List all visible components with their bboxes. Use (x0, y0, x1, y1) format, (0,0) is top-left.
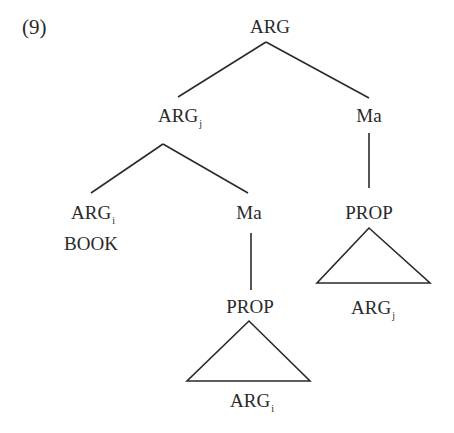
node-prop-right-label: PROP (345, 202, 393, 223)
node-prop-middle: PROP (226, 297, 274, 316)
node-arg-j-leaf-subscript: j (392, 310, 395, 321)
edge-root-left (178, 42, 266, 97)
node-arg-i-leaf: ARGi (230, 391, 274, 414)
node-arg-i-leaf-label: ARG (230, 390, 270, 411)
node-arg-j: ARGj (158, 106, 202, 129)
node-arg-j-label: ARG (158, 105, 198, 126)
edge-left-left (91, 144, 163, 193)
node-root: ARG (250, 17, 290, 36)
node-prop-right: PROP (345, 203, 393, 222)
node-arg-j-subscript: j (199, 118, 202, 129)
node-ma-right: Ma (356, 106, 381, 125)
node-arg-i-subscript: i (112, 215, 115, 226)
node-arg-i-label: ARG (71, 202, 111, 223)
gloss-book: BOOK (64, 233, 118, 254)
node-arg-i: ARGi (71, 203, 115, 226)
node-arg-j-leaf: ARGj (351, 298, 395, 321)
node-ma-middle: Ma (236, 203, 261, 222)
triangle-left-right-prop (187, 321, 310, 381)
node-arg-i-gloss: BOOK (64, 234, 118, 253)
edge-root-right (266, 42, 369, 98)
node-arg-i-leaf-subscript: i (271, 403, 274, 414)
node-root-label: ARG (250, 16, 290, 37)
edge-left-right (163, 144, 248, 193)
triangle-right-prop (317, 228, 430, 283)
node-prop-middle-label: PROP (226, 296, 274, 317)
node-arg-j-leaf-label: ARG (351, 297, 391, 318)
node-ma-right-label: Ma (356, 105, 381, 126)
node-ma-middle-label: Ma (236, 202, 261, 223)
